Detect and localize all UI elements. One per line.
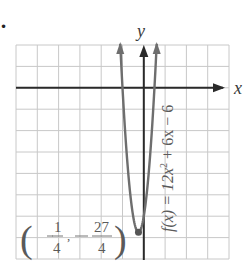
vertex-x-denominator: 4: [53, 240, 61, 256]
vertex-close-paren: ): [114, 218, 127, 261]
vertex-comma: ,: [67, 228, 70, 243]
vertex-open-paren: (: [20, 218, 33, 261]
vertex-x-numerator: 1: [54, 219, 62, 235]
parabola-path: [120, 44, 156, 232]
y-axis-arrow-icon: [139, 45, 148, 57]
right-curve-arrow-icon: [153, 42, 161, 54]
vertex-point: [135, 229, 142, 236]
vertex-y-numerator: 27: [94, 219, 110, 235]
vertex-y-denominator: 4: [98, 240, 106, 256]
function-equation-label: f(x) = 12x2 + 6x − 6: [158, 105, 177, 232]
graph-figure: • y x f(x) = 12x2 + 6x − 6 ( 1 4 , 27 4 …: [0, 0, 251, 278]
left-curve-arrow-icon: [116, 42, 124, 54]
y-axis-label: y: [135, 21, 145, 41]
vertex-label: ( 1 4 , 27 4 ): [20, 218, 127, 261]
equation-suffix: + 6x − 6: [159, 105, 176, 163]
equation-prefix: f(x) = 12x: [159, 168, 177, 232]
x-axis-label: x: [233, 78, 242, 98]
problem-bullet: •: [0, 20, 7, 34]
x-axis-arrow-icon: [213, 83, 225, 92]
